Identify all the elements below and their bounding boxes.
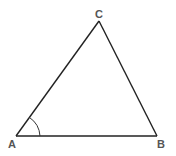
vertex-label-b: B bbox=[157, 138, 165, 150]
side-ac bbox=[16, 21, 99, 136]
triangle-diagram: C A B bbox=[0, 0, 176, 156]
vertex-label-c: C bbox=[95, 8, 103, 20]
side-bc bbox=[99, 21, 157, 136]
angle-a-arc bbox=[30, 118, 41, 137]
vertex-label-a: A bbox=[8, 138, 16, 150]
